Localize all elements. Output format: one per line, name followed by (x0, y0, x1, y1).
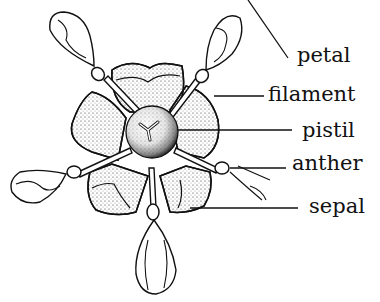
sepal-left (71, 92, 126, 160)
label-filament: filament (268, 84, 356, 105)
petal-left (11, 170, 66, 202)
petal-bottom (136, 220, 176, 294)
anther-right (215, 162, 229, 174)
label-sepal: sepal (309, 196, 365, 217)
pistil (126, 106, 178, 158)
petal-right-partial (230, 166, 270, 200)
petal-upper-right (206, 16, 242, 70)
label-pistil: pistil (302, 120, 355, 141)
label-petal: petal (297, 45, 351, 66)
anther-bottom (147, 204, 159, 220)
anther-left (67, 166, 81, 178)
sepal-bottom-left (88, 164, 148, 215)
label-anther: anther (292, 153, 362, 174)
petal-upper-left (50, 12, 94, 66)
leader-petal (248, 0, 288, 58)
filament-bottom (149, 168, 156, 208)
